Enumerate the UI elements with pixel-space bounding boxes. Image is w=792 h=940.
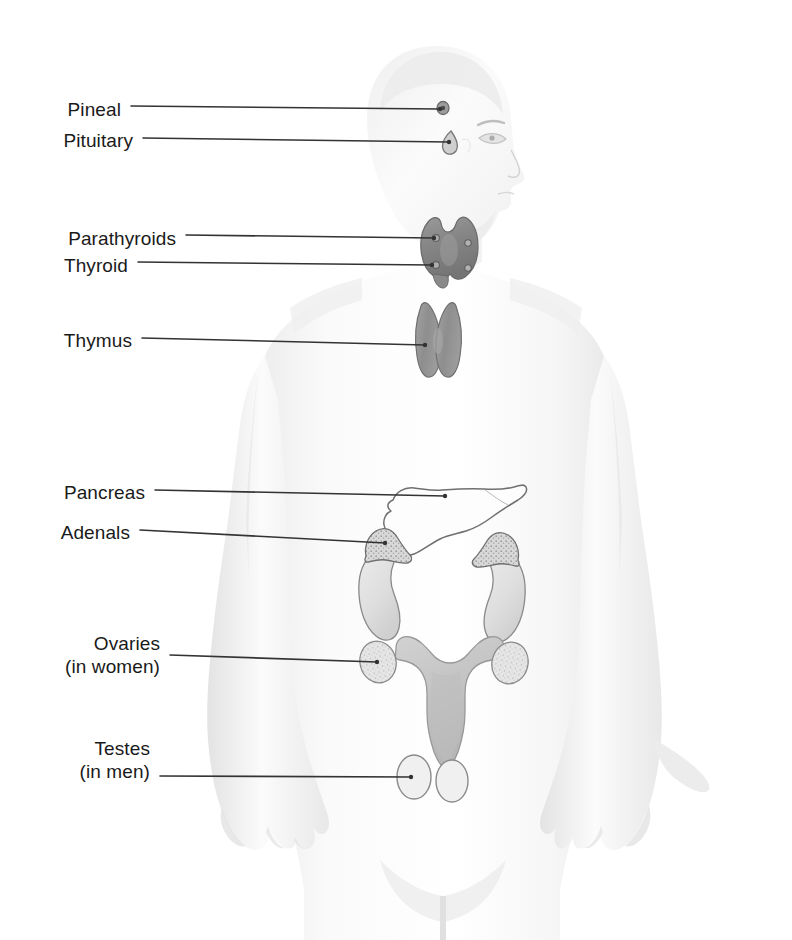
leader-endpoint-parathyroids	[432, 236, 436, 240]
leader-line-testes	[160, 776, 411, 777]
leader-endpoint-thyroid	[430, 263, 434, 267]
leader-line-pituitary	[143, 138, 449, 142]
leader-endpoint-pineal	[438, 107, 442, 111]
leader-line-pineal	[131, 106, 440, 109]
label-thyroid: Thyroid	[0, 254, 128, 277]
leader-line-ovaries	[170, 655, 377, 662]
leader-endpoint-thymus	[423, 343, 427, 347]
leader-line-pancreas	[155, 490, 445, 496]
label-subtext-testes: (in men)	[0, 760, 150, 783]
label-text-pancreas: Pancreas	[64, 482, 145, 503]
label-text-parathyroids: Parathyroids	[68, 228, 176, 249]
leader-line-parathyroids	[186, 235, 434, 238]
label-pineal: Pineal	[0, 98, 121, 121]
leader-endpoint-pituitary	[447, 140, 451, 144]
leader-endpoint-ovaries	[375, 660, 379, 664]
endocrine-system-figure: PinealPituitaryParathyroidsThyroidThymus…	[0, 0, 792, 940]
label-text-ovaries: Ovaries	[94, 633, 160, 654]
leader-endpoint-testes	[409, 775, 413, 779]
label-parathyroids: Parathyroids	[0, 227, 176, 250]
leader-endpoint-adenals	[383, 541, 387, 545]
label-text-testes: Testes	[94, 738, 150, 759]
label-text-pineal: Pineal	[68, 99, 121, 120]
label-testes: Testes(in men)	[0, 737, 150, 783]
leader-line-adenals	[140, 530, 385, 543]
label-adenals: Adenals	[0, 521, 130, 544]
label-text-thyroid: Thyroid	[64, 255, 128, 276]
label-text-adenals: Adenals	[61, 522, 130, 543]
label-pituitary: Pituitary	[0, 129, 133, 152]
label-thymus: Thymus	[0, 329, 132, 352]
label-text-thymus: Thymus	[64, 330, 132, 351]
leader-line-thyroid	[138, 262, 432, 265]
label-subtext-ovaries: (in women)	[0, 655, 160, 678]
leader-endpoint-pancreas	[443, 494, 447, 498]
label-ovaries: Ovaries(in women)	[0, 632, 160, 678]
label-pancreas: Pancreas	[0, 481, 145, 504]
leader-line-thymus	[142, 338, 425, 345]
label-text-pituitary: Pituitary	[63, 130, 133, 151]
